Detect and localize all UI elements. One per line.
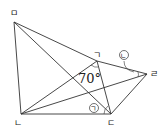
label-mieum: ㅁ — [10, 8, 18, 18]
segment-giyeok-rieul — [97, 61, 147, 74]
label-rieul: ㄹ — [150, 69, 158, 79]
angle-arc-70 — [91, 65, 98, 67]
angle-value-label: 70° — [78, 71, 101, 86]
segment-mieum-nieun — [14, 22, 21, 114]
label-digeut: ㄷ — [107, 118, 115, 128]
angle-arc-b — [138, 72, 139, 77]
segment-nieun-giyeok — [21, 61, 97, 114]
circle-mark-b-label: ㄴ — [120, 52, 126, 60]
label-giyeok: ㄱ — [93, 50, 101, 60]
segment-mieum-digeut — [14, 22, 111, 114]
circle-mark-a-label: ㄱ — [90, 105, 96, 113]
segment-giyeok-digeut — [97, 61, 111, 114]
segment-mieum-giyeok — [14, 22, 97, 61]
label-nieun: ㄴ — [14, 118, 22, 128]
geometry-diagram: ㅁ ㄱ ㄴ ㄷ ㄹ 70° ㄱ ㄴ — [0, 0, 167, 137]
